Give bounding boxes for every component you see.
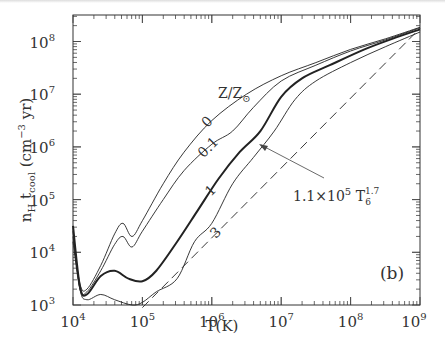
panel-label: (b)	[380, 263, 404, 283]
y-tick-label: 103	[30, 295, 55, 315]
annotation-arrow	[261, 145, 324, 178]
series-line	[73, 32, 420, 305]
axis-ticks	[73, 15, 420, 305]
fit-formula-label: 1.1×105 T1.76	[293, 186, 380, 207]
x-tick-label: 108	[338, 311, 363, 331]
label-z0-1: 0.1	[194, 134, 221, 161]
y-tick-label: 104	[30, 242, 55, 262]
svg-text:nH tcool (cm−3 yr): nH tcool (cm−3 yr)	[16, 98, 37, 222]
y-axis-label: nH tcool (cm−3 yr)	[16, 98, 37, 222]
x-tick-label: 105	[130, 311, 155, 331]
x-axis-label: T(K)	[206, 317, 239, 335]
series-line	[73, 27, 420, 291]
series-curves	[73, 27, 420, 307]
label-z1: 1	[202, 181, 220, 199]
arrow-head-icon	[259, 144, 268, 151]
x-tick-label: 109	[401, 311, 426, 331]
x-tick-labels: 104105106107108109	[60, 311, 426, 331]
x-tick-label: 107	[268, 311, 293, 331]
legend-title: Z/Z⊙	[218, 85, 251, 104]
plot-frame	[73, 15, 420, 305]
series-line	[73, 28, 420, 295]
label-z3: 3	[207, 223, 225, 241]
label-z0: 0	[198, 113, 216, 131]
series-line	[73, 29, 420, 295]
cooling-time-chart: 104105106107108109 103104105106107108 T(…	[0, 0, 445, 352]
y-tick-label: 108	[30, 32, 55, 52]
x-tick-label: 104	[60, 311, 85, 331]
series-line	[142, 28, 420, 307]
